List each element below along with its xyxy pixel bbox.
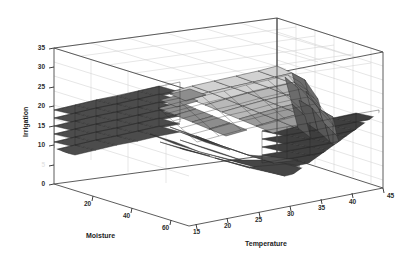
z-axis-ticks — [49, 48, 54, 185]
z-axis-title: Irrigation — [22, 107, 29, 137]
moisture-axis-title: Moisture — [86, 232, 115, 239]
temperature-tick-label-20: 20 — [224, 223, 231, 230]
z-tick-label-35: 35 — [31, 45, 45, 52]
moisture-tick-label-40: 40 — [123, 213, 130, 220]
z-tick-label-30: 30 — [31, 64, 45, 71]
temperature-axis-title: Temperature — [245, 240, 287, 247]
temperature-tick-label-30: 30 — [287, 211, 294, 218]
moisture-tick-label-20: 20 — [84, 201, 91, 208]
z-tick-label-20: 20 — [31, 103, 45, 110]
temperature-tick-label-25: 25 — [255, 217, 262, 224]
moisture-axis-ticks — [92, 196, 171, 225]
z-tick-label-10: 10 — [31, 142, 45, 149]
temperature-tick-label-35: 35 — [318, 205, 325, 212]
temperature-tick-label-45: 45 — [387, 193, 394, 200]
surface-plot-canvas — [0, 0, 414, 264]
moisture-tick-label-60: 60 — [162, 225, 169, 232]
z-tick-label-0: 0 — [31, 181, 45, 188]
z-tick-label-5: 5 — [31, 162, 45, 169]
surface-mesh — [54, 66, 379, 176]
z-tick-label-15: 15 — [31, 123, 45, 130]
surface-plot-figure: 35 30 25 20 15 10 5 0 Irrigation 20 40 6… — [0, 0, 414, 264]
temperature-tick-label-40: 40 — [349, 199, 356, 206]
temperature-tick-label-15: 15 — [193, 229, 200, 236]
z-tick-label-25: 25 — [31, 84, 45, 91]
